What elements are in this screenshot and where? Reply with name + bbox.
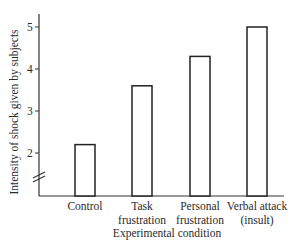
category-label: Personal — [180, 199, 220, 213]
bar — [75, 145, 95, 196]
x-axis-label: Experimental condition — [113, 227, 221, 239]
category-label: frustration — [176, 213, 224, 227]
y-tick-label: 4 — [27, 63, 33, 75]
y-axis-label: Intensity of shock given by subjects — [8, 29, 20, 194]
category-label: Task — [131, 199, 153, 213]
category-label: (insult) — [240, 213, 273, 227]
bar — [190, 56, 210, 196]
y-tick-label: 3 — [27, 105, 33, 117]
category-label: frustration — [118, 213, 166, 227]
bar — [132, 86, 152, 196]
category-label: Control — [67, 199, 102, 213]
bars — [75, 27, 267, 196]
y-tick-label: 5 — [27, 21, 33, 33]
bar — [247, 27, 267, 196]
category-label: Verbal attack — [227, 199, 287, 213]
y-tick-label: 2 — [27, 147, 33, 159]
